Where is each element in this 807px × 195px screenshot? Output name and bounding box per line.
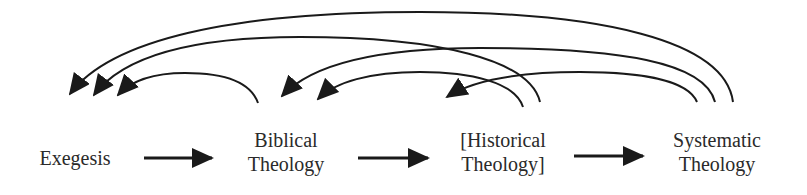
node-biblical-line-1: Biblical — [236, 128, 336, 152]
node-biblical-theology: Biblical Theology — [236, 128, 336, 176]
arc-historical-to-biblical — [318, 72, 523, 107]
arc-systematic-to-biblical — [282, 48, 715, 102]
feedback-arcs — [70, 12, 733, 107]
node-historical-line-1: [Historical — [448, 128, 558, 152]
node-systematic-line-2: Theology — [662, 152, 772, 176]
node-exegesis: Exegesis — [30, 146, 120, 170]
arc-historical-to-exegesis — [94, 37, 540, 102]
node-historical-theology: [Historical Theology] — [448, 128, 558, 176]
forward-arrows — [144, 156, 643, 158]
arc-systematic-to-historical — [447, 72, 697, 102]
node-biblical-line-2: Theology — [236, 152, 336, 176]
node-historical-line-2: Theology] — [448, 152, 558, 176]
node-exegesis-line-1: Exegesis — [30, 146, 120, 170]
node-systematic-line-1: Systematic — [662, 128, 772, 152]
arc-biblical-to-exegesis — [118, 73, 258, 103]
node-systematic-theology: Systematic Theology — [662, 128, 772, 176]
